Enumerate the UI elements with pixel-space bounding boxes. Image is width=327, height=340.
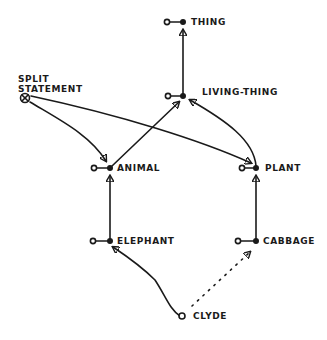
- edge-plant-to-living-thing: [190, 100, 256, 166]
- node-clyde: [179, 313, 185, 319]
- label-split-line1: SPLIT: [18, 74, 50, 84]
- edge-animal-to-living-thing: [112, 102, 179, 166]
- node-split-statement: [21, 94, 30, 103]
- node-living-thing: [165, 93, 185, 98]
- label-animal: ANIMAL: [117, 163, 160, 173]
- node-cabbage: [235, 238, 258, 243]
- edge-clyde-to-cabbage: [192, 252, 250, 306]
- label-clyde: CLYDE: [193, 311, 227, 321]
- label-plant: PLANT: [265, 163, 301, 173]
- node-plant: [239, 165, 258, 170]
- node-elephant: [90, 238, 112, 243]
- edge-clyde-to-elephant: [113, 247, 180, 316]
- edge-split-to-plant: [31, 96, 251, 163]
- label-thing: THING: [191, 17, 226, 27]
- semantic-network-diagram: THING LIVING-THING ANIMAL PLANT ELEPHANT…: [0, 0, 327, 340]
- label-elephant: ELEPHANT: [117, 236, 175, 246]
- label-living-thing: LIVING-THING: [202, 87, 278, 97]
- node-animal: [91, 165, 112, 170]
- node-thing: [164, 19, 185, 24]
- label-cabbage: CABBAGE: [263, 236, 315, 246]
- label-split-line2: STATEMENT: [18, 84, 83, 94]
